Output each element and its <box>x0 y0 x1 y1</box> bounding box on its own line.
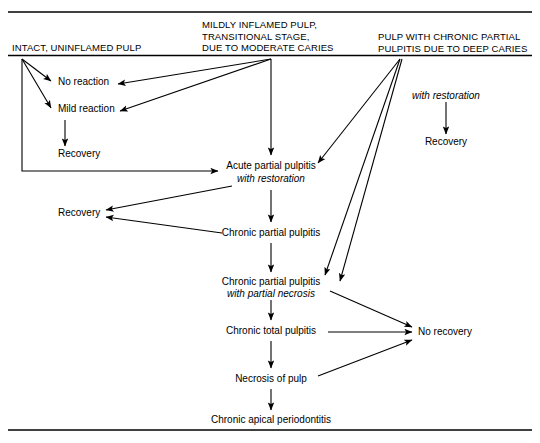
node-acute-partial-pulpitis: Acute partial pulpitis <box>226 160 316 172</box>
arrow-necrosis-of-pulp-to-no-recovery <box>318 340 412 376</box>
node-chronic-apical-periodontitis: Chronic apical periodontitis <box>211 414 331 426</box>
node-no-recovery: No recovery <box>418 326 472 338</box>
column-header-chronic-partial: PULP WITH CHRONIC PARTIAL PULPITIS DUE T… <box>378 31 527 54</box>
arrow-deepcaries-to-necrosis-a <box>325 59 400 275</box>
node-chronic-partial-pulpitis: Chronic partial pulpitis <box>222 227 320 239</box>
node-no-reaction: No reaction <box>58 76 109 88</box>
node-acute-with-restoration: with restoration <box>237 173 305 185</box>
node-chronic-total-pulpitis: Chronic total pulpitis <box>226 325 316 337</box>
arrow-chronic-partial-to-recovery <box>106 217 222 233</box>
arrow-mildly-to-mild-reaction <box>120 59 271 111</box>
arrow-intact-to-mild-reaction <box>22 59 51 108</box>
node-chronic-partial-pulpitis-necrosis: Chronic partial pulpitis <box>222 276 320 288</box>
arrow-mildly-to-no-reaction <box>118 59 271 84</box>
arrow-necrosis-to-no-recovery <box>330 291 412 327</box>
column-header-mildly-inflamed: MILDLY INFLAMED PULP, TRANSITIONAL STAGE… <box>202 19 334 54</box>
arrow-deepcaries-to-necrosis-b <box>340 59 402 281</box>
column-header-intact: INTACT, UNINFLAMED PULP <box>12 42 141 54</box>
arrow-acute-restoration-to-recovery <box>106 186 232 210</box>
pulpitis-progression-diagram: INTACT, UNINFLAMED PULP MILDLY INFLAMED … <box>0 0 540 443</box>
node-necrosis-of-pulp: Necrosis of pulp <box>235 373 307 385</box>
node-recovery-right: Recovery <box>425 136 467 148</box>
node-recovery-left-top: Recovery <box>58 148 100 160</box>
arrow-intact-bracket-to-acute <box>22 59 218 171</box>
arrow-intact-to-no-reaction <box>22 59 51 81</box>
node-mild-reaction: Mild reaction <box>58 103 115 115</box>
node-with-partial-necrosis: with partial necrosis <box>227 288 315 300</box>
node-with-restoration-right: with restoration <box>412 90 480 102</box>
node-recovery-left-mid: Recovery <box>58 207 100 219</box>
